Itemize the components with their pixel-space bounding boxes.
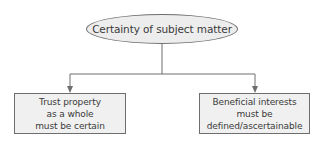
child-node-line: Trust property	[39, 96, 101, 108]
child-node-trust-property: Trust property as a whole must be certai…	[14, 93, 126, 134]
child-node-line: defined/ascertainable	[207, 120, 303, 132]
child-node-line: must be	[236, 108, 272, 120]
root-node-label: Certainty of subject matter	[92, 23, 232, 35]
diagram-canvas: Certainty of subject matter Trust proper…	[0, 0, 319, 150]
child-node-line: Beneficial interests	[212, 96, 296, 108]
child-node-line: must be certain	[35, 120, 105, 132]
right-arrowhead-icon	[252, 86, 258, 93]
child-node-line: as a whole	[46, 108, 93, 120]
child-node-beneficial-interests: Beneficial interests must be defined/asc…	[199, 93, 310, 134]
left-arrowhead-icon	[67, 86, 73, 93]
root-node-certainty-of-subject-matter: Certainty of subject matter	[86, 14, 238, 44]
